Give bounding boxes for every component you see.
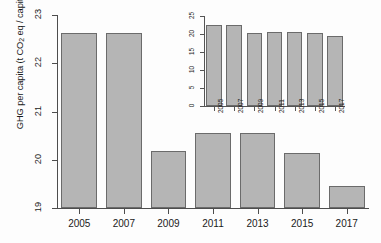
inset-bar xyxy=(327,36,343,106)
x-axis-tick xyxy=(347,209,348,214)
inset-x-axis-tick-label: 2007 xyxy=(237,99,244,113)
y-axis-tick-label: 22 xyxy=(33,51,43,73)
y-axis-tick xyxy=(52,63,57,64)
x-axis-tick-label: 2005 xyxy=(55,218,103,229)
bar xyxy=(195,133,231,208)
x-axis-tick xyxy=(213,209,214,214)
bar xyxy=(61,33,97,208)
inset-x-axis-tick xyxy=(335,107,336,111)
x-axis-tick-label: 2009 xyxy=(144,218,192,229)
y-axis-tick xyxy=(52,160,57,161)
inset-x-axis-tick-label: 2013 xyxy=(298,99,305,113)
y-axis-tick-label: 19 xyxy=(33,196,43,218)
inset-bar xyxy=(307,33,323,106)
inset-y-axis-tick xyxy=(200,106,204,107)
y-axis-tick-label: 20 xyxy=(33,148,43,170)
y-axis-title: GHG per capita (t CO2 eq / capita) xyxy=(15,0,25,150)
bar xyxy=(151,151,187,208)
inset-x-axis-tick xyxy=(315,107,316,111)
y-axis-title-subscript: 2 xyxy=(18,38,25,42)
bar xyxy=(106,33,142,208)
x-axis-tick-label: 2007 xyxy=(100,218,148,229)
x-axis-tick-label: 2015 xyxy=(278,218,326,229)
inset-bar xyxy=(206,25,222,106)
inset-x-axis-tick xyxy=(214,107,215,111)
inset-x-axis-tick xyxy=(275,107,276,111)
x-axis-tick xyxy=(79,209,80,214)
x-axis-tick xyxy=(258,209,259,214)
inset-bar-chart: 0510152025 2005200720092011201320152017 xyxy=(182,8,347,143)
inset-bar xyxy=(226,25,242,106)
y-axis-title-post: eq / capita) xyxy=(15,0,25,38)
inset-x-axis-tick-label: 2017 xyxy=(338,99,345,113)
bar xyxy=(284,153,320,208)
x-axis-tick xyxy=(168,209,169,214)
inset-y-axis-tick-label: 20 xyxy=(188,25,195,41)
x-axis-tick-label: 2013 xyxy=(234,218,282,229)
inset-y-axis-line xyxy=(204,16,205,106)
inset-bar xyxy=(267,32,283,106)
chart-canvas: GHG per capita (t CO2 eq / capita) 19202… xyxy=(0,0,381,243)
y-axis-tick-label: 23 xyxy=(33,3,43,25)
inset-y-axis-tick-label: 25 xyxy=(188,7,195,23)
inset-y-axis-tick-label: 5 xyxy=(188,79,195,95)
inset-x-axis-tick xyxy=(234,107,235,111)
x-axis-tick-label: 2011 xyxy=(189,218,237,229)
inset-y-axis-tick-label: 10 xyxy=(188,61,195,77)
y-axis-tick xyxy=(52,15,57,16)
inset-bar xyxy=(247,33,263,106)
inset-x-axis-tick-label: 2009 xyxy=(257,99,264,113)
bar xyxy=(329,186,365,208)
inset-x-axis-tick-label: 2015 xyxy=(318,99,325,113)
inset-y-axis-tick xyxy=(200,70,204,71)
y-axis-line xyxy=(57,15,58,208)
inset-y-axis-tick xyxy=(200,16,204,17)
inset-y-axis-tick xyxy=(200,34,204,35)
inset-x-axis-tick xyxy=(254,107,255,111)
bar xyxy=(240,133,276,208)
y-axis-tick xyxy=(52,112,57,113)
inset-y-axis-tick xyxy=(200,52,204,53)
inset-y-axis-tick-label: 15 xyxy=(188,43,195,59)
y-axis-title-pre: GHG per capita (t CO xyxy=(15,42,25,129)
inset-y-axis-tick-label: 0 xyxy=(188,97,195,113)
inset-bar xyxy=(287,32,303,106)
x-axis-tick xyxy=(124,209,125,214)
inset-y-axis-tick xyxy=(200,88,204,89)
y-axis-tick-label: 21 xyxy=(33,100,43,122)
inset-x-axis-tick-label: 2011 xyxy=(278,99,285,113)
y-axis-tick xyxy=(52,208,57,209)
inset-x-axis-tick-label: 2005 xyxy=(217,99,224,113)
x-axis-tick xyxy=(302,209,303,214)
inset-x-axis-tick xyxy=(295,107,296,111)
x-axis-tick-label: 2017 xyxy=(323,218,371,229)
